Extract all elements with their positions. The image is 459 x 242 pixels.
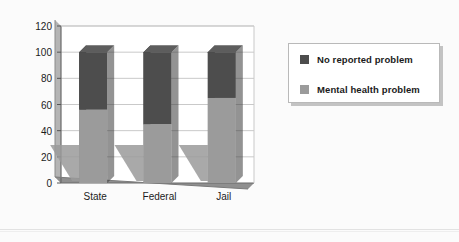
- svg-text:80: 80: [41, 73, 53, 84]
- legend-swatch-icon-dark: [300, 55, 309, 64]
- svg-text:0: 0: [46, 178, 52, 189]
- legend-swatch-icon-light: [300, 85, 309, 94]
- svg-text:40: 40: [41, 126, 53, 137]
- legend-item-mental-health-problem: Mental health problem: [289, 74, 439, 104]
- plot-area: 020406080100120 StateFederalJail: [0, 0, 280, 210]
- x-axis-label: Jail: [216, 191, 231, 202]
- svg-text:20: 20: [41, 152, 53, 163]
- svg-text:60: 60: [41, 100, 53, 111]
- svg-text:120: 120: [35, 21, 52, 32]
- x-axis-labels: StateFederalJail: [83, 191, 231, 202]
- legend-label-mental-health-problem: Mental health problem: [317, 84, 420, 95]
- bar-chart-svg: 020406080100120 StateFederalJail: [0, 0, 280, 210]
- chart-figure: 020406080100120 StateFederalJail No repo…: [0, 0, 459, 242]
- legend-item-no-reported-problem: No reported problem: [289, 44, 439, 74]
- svg-text:100: 100: [35, 47, 52, 58]
- x-axis-label: State: [83, 191, 107, 202]
- page-rule-bottom: [0, 231, 459, 232]
- page-rule-top: [0, 229, 459, 230]
- x-axis-label: Federal: [143, 191, 177, 202]
- legend-label-no-reported-problem: No reported problem: [317, 54, 413, 65]
- chart-legend: No reported problem Mental health proble…: [288, 43, 440, 103]
